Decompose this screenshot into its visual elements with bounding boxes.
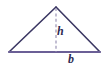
triangle-diagram-svg — [0, 0, 106, 66]
triangle-left-side — [9, 7, 56, 52]
geometry-figure: h b — [0, 0, 106, 66]
base-label: b — [68, 53, 74, 65]
height-label: h — [57, 25, 64, 37]
